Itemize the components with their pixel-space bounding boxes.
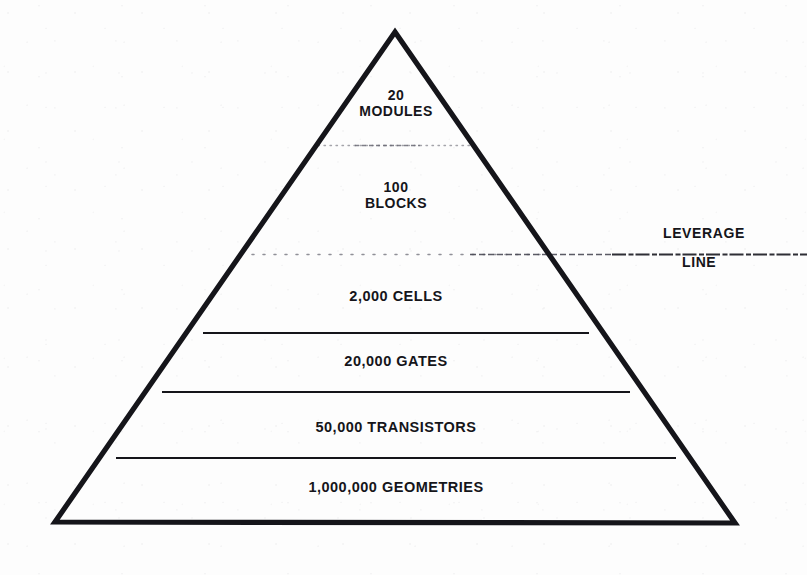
figure-canvas: 20 MODULES 100 BLOCKS 2,000 CELLS 20,000…: [0, 0, 807, 575]
tier-count-blocks: 100: [296, 180, 496, 196]
tier-text-cells: 2,000 CELLS: [266, 288, 526, 304]
tier-unit-modules: MODULES: [296, 104, 496, 120]
tier-label-gates: 20,000 GATES: [266, 353, 526, 369]
tier-label-modules: 20 MODULES: [296, 88, 496, 119]
tier-label-transistors: 50,000 TRANSISTORS: [236, 419, 556, 435]
tier-label-geometries: 1,000,000 GEOMETRIES: [226, 479, 566, 495]
tier-text-transistors: 50,000 TRANSISTORS: [236, 419, 556, 435]
tier-label-cells: 2,000 CELLS: [266, 288, 526, 304]
tier-count-modules: 20: [296, 88, 496, 104]
leverage-line-caption: LEVERAGE LINE: [663, 226, 793, 269]
tier-text-geometries: 1,000,000 GEOMETRIES: [226, 479, 566, 495]
tier-unit-blocks: BLOCKS: [296, 196, 496, 212]
tier-text-gates: 20,000 GATES: [266, 353, 526, 369]
tier-label-blocks: 100 BLOCKS: [296, 180, 496, 211]
leverage-line-word-2: LINE: [682, 255, 793, 269]
leverage-line-word-1: LEVERAGE: [663, 226, 793, 240]
